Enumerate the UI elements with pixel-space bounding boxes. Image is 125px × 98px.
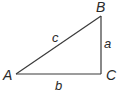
side-c-label: c <box>52 30 59 45</box>
side-c-line <box>16 16 101 74</box>
vertex-b-label: B <box>96 0 105 15</box>
vertex-a-label: A <box>2 67 12 83</box>
triangle-diagram: A B C a b c <box>0 0 125 98</box>
side-b-label: b <box>55 78 62 93</box>
side-a-label: a <box>104 36 111 51</box>
vertex-c-label: C <box>106 67 117 83</box>
